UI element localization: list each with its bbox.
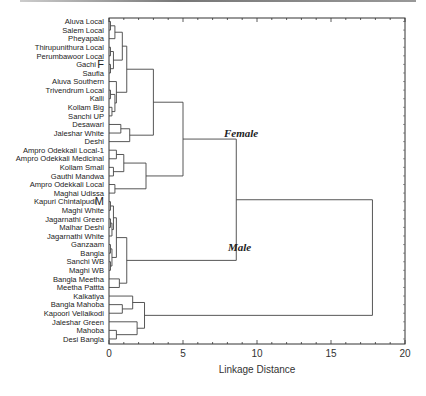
leaf-labels: Aluva LocalSalem LocalPheyapalaThirupuni… — [16, 17, 105, 343]
x-axis-label: Linkage Distance — [219, 364, 296, 375]
svg-text:10: 10 — [251, 348, 263, 359]
dendrogram-chart: 05101520 Aluva LocalSalem LocalPheyapala… — [0, 0, 426, 396]
svg-text:0: 0 — [106, 348, 112, 359]
plot-frame — [109, 18, 405, 344]
svg-text:Desi Bangla: Desi Bangla — [63, 335, 105, 344]
svg-text:5: 5 — [180, 348, 186, 359]
female-annotation: Female — [223, 127, 258, 139]
svg-text:20: 20 — [399, 348, 411, 359]
svg-text:15: 15 — [325, 348, 337, 359]
male-annotation: Male — [227, 241, 251, 253]
dendrogram-tree — [109, 22, 372, 339]
